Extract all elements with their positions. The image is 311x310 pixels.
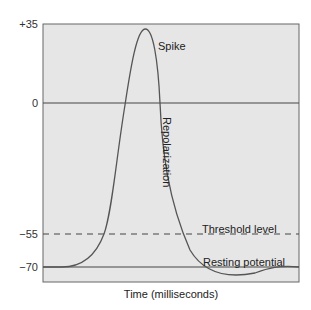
- spike-label: Spike: [158, 40, 186, 52]
- y-tick-minus-55: −55: [19, 228, 38, 240]
- action-potential-chart: +35 0 −55 −70 Spike Repolarization Thres…: [0, 0, 311, 310]
- repolarization-label: Repolarization: [161, 117, 173, 187]
- threshold-label: Threshold level: [202, 223, 277, 235]
- y-tick-minus-70: −70: [19, 261, 38, 273]
- y-tick-35: +35: [19, 18, 38, 30]
- y-tick-0: 0: [32, 97, 38, 109]
- x-axis-label: Time (milliseconds): [124, 288, 218, 300]
- resting-label: Resting potential: [203, 256, 285, 268]
